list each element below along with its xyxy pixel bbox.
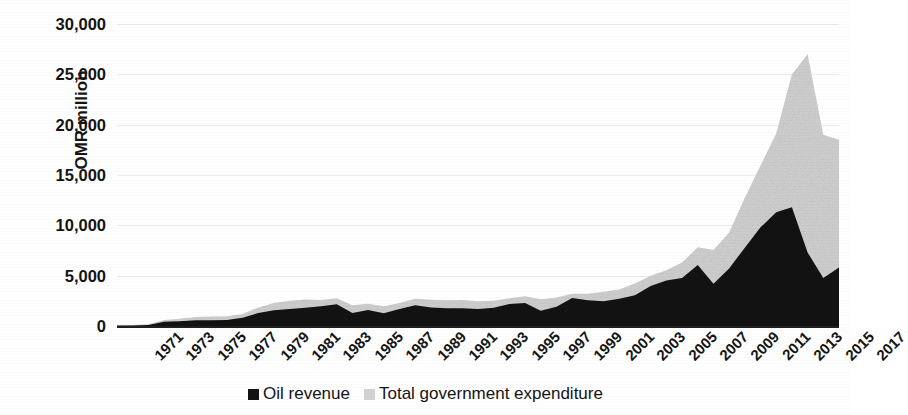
legend-item-oil-revenue[interactable]: Oil revenue <box>248 384 350 404</box>
x-axis-tick-label: 1997 <box>559 328 595 364</box>
x-axis-tick-label: 1987 <box>402 328 438 364</box>
legend-label-total-government-expenditure: Total government expenditure <box>379 384 603 404</box>
legend-item-total-government-expenditure[interactable]: Total government expenditure <box>364 384 603 404</box>
x-axis-tick-label: 1999 <box>590 328 626 364</box>
legend-swatch-icon <box>248 389 259 400</box>
area-series-svg <box>117 24 839 326</box>
x-axis-tick-label: 2011 <box>778 328 813 363</box>
x-axis-tick-label: 2007 <box>716 328 752 364</box>
x-axis-tick-label: 1995 <box>527 328 563 364</box>
x-axis-tick-label: 2005 <box>684 328 720 364</box>
y-axis-tick-label: 5,000 <box>22 267 106 284</box>
x-axis-tick-label: 1973 <box>182 328 218 364</box>
x-axis-tick-label: 1981 <box>308 328 344 364</box>
x-axis-tick-label: 1985 <box>371 328 407 364</box>
x-axis-tick-label: 1975 <box>214 328 250 364</box>
x-axis-tick-label: 1993 <box>496 328 532 364</box>
plot-area <box>117 24 839 326</box>
y-axis-tick-label: 25,000 <box>22 66 106 83</box>
y-axis-tick-label: 20,000 <box>22 116 106 133</box>
x-axis-tick-label: 2001 <box>622 328 658 364</box>
x-axis-tick-label: 1977 <box>245 328 281 364</box>
y-axis-tick-label: 30,000 <box>22 16 106 33</box>
x-axis-tick-label: 2015 <box>841 328 877 364</box>
x-axis-tick-label: 2003 <box>653 328 689 364</box>
x-axis-tick-label: 1979 <box>276 328 312 364</box>
x-axis-tick-label: 1989 <box>433 328 469 364</box>
chart-legend: Oil revenue Total government expenditure <box>0 384 851 404</box>
legend-label-oil-revenue: Oil revenue <box>263 384 350 404</box>
x-axis-tick-label: 1991 <box>465 328 501 364</box>
y-axis-tick-label: 10,000 <box>22 217 106 234</box>
x-axis-tick-labels: 1971197319751977197919811983198519871989… <box>117 328 857 376</box>
x-axis-tick-label: 1971 <box>151 328 187 364</box>
legend-swatch-icon <box>364 389 375 400</box>
y-axis-tick-label: 15,000 <box>22 167 106 184</box>
y-axis-tick-label: 0 <box>22 318 106 335</box>
x-axis-tick-label: 2009 <box>747 328 783 364</box>
y-axis-tick-labels: 05,00010,00015,00020,00025,00030,000 <box>22 0 106 415</box>
x-axis-tick-label: 2013 <box>810 328 846 364</box>
x-axis-tick-label: 2017 <box>873 328 908 364</box>
x-axis-tick-label: 1983 <box>339 328 375 364</box>
